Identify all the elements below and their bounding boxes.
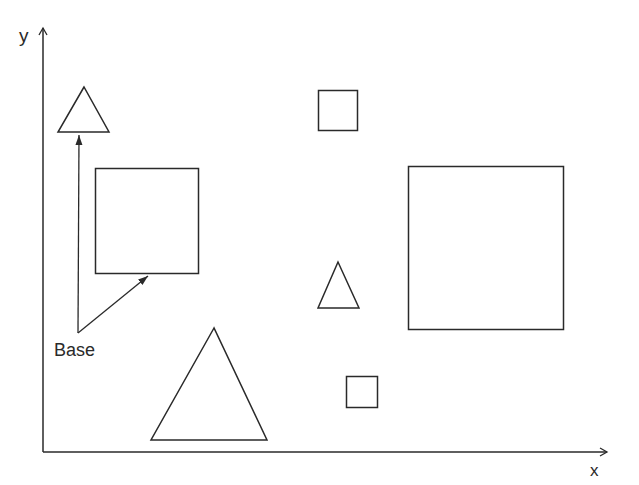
square-right <box>409 167 564 330</box>
square-bottom-center <box>347 377 378 408</box>
base-label: Base <box>54 340 95 360</box>
triangle-bottom <box>151 328 267 440</box>
triangle-top-left <box>58 87 109 132</box>
base-arrow-to-triangle <box>78 135 79 333</box>
square-top-center <box>319 91 358 131</box>
y-axis-label: y <box>19 25 29 46</box>
shapes-diagram: y x Base <box>0 0 639 485</box>
square-left <box>96 169 199 274</box>
triangle-center <box>318 262 359 308</box>
x-axis-label: x <box>590 461 599 480</box>
base-arrow-to-square <box>78 276 148 333</box>
